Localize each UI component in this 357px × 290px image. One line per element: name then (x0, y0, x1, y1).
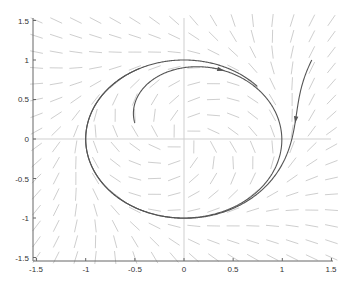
direction-segment (270, 78, 276, 90)
direction-segment (115, 251, 116, 264)
direction-segment (326, 144, 337, 150)
direction-segment (110, 80, 120, 88)
direction-segment (227, 82, 239, 86)
direction-segment (151, 94, 158, 105)
direction-segment (327, 95, 336, 104)
direction-segment (208, 128, 220, 133)
direction-segment (169, 238, 180, 245)
direction-segment (228, 127, 239, 135)
direction-segment (305, 225, 318, 227)
direction-segment (132, 125, 139, 136)
y-tick-label: -0.5 (15, 175, 29, 184)
direction-segment (74, 220, 77, 233)
direction-segment (270, 125, 275, 137)
direction-segment (228, 190, 237, 199)
x-tick-label: 0.5 (227, 265, 239, 274)
direction-segment (308, 126, 316, 136)
direction-segment (95, 251, 96, 264)
direction-segment (227, 240, 239, 244)
direction-segment (30, 83, 43, 84)
direction-segment (249, 126, 257, 136)
direction-segment (291, 46, 294, 59)
direction-segment (305, 193, 318, 195)
direction-segment (290, 14, 294, 26)
direction-segment (272, 140, 273, 153)
direction-segment (250, 46, 256, 58)
direction-segment (168, 224, 181, 227)
direction-segment (89, 34, 101, 38)
direction-segment (129, 160, 141, 165)
direction-segment (272, 46, 273, 59)
direction-segment (213, 156, 215, 169)
direction-segment (95, 219, 96, 232)
direction-segment (168, 51, 181, 52)
direction-segment (290, 30, 293, 43)
direction-segment (248, 111, 258, 119)
direction-segment (306, 176, 318, 181)
direction-segment (52, 127, 61, 136)
direction-segment (208, 49, 220, 55)
direction-segment (93, 141, 98, 153)
arrowhead-icon (294, 116, 298, 123)
direction-segment (288, 158, 296, 168)
direction-segment (188, 239, 200, 245)
direction-segment (89, 52, 102, 53)
direction-segment (210, 173, 217, 184)
direction-segment (306, 255, 318, 261)
direction-segment (129, 34, 141, 38)
direction-segment (188, 191, 199, 197)
direction-segment (231, 172, 236, 184)
direction-segment (70, 18, 82, 24)
direction-segment (53, 220, 59, 232)
direction-segment (50, 51, 63, 53)
direction-segment (32, 205, 40, 215)
x-tick-label: 0 (182, 265, 187, 274)
direction-segment (94, 204, 98, 216)
direction-segment (149, 17, 160, 25)
direction-segment (309, 15, 315, 27)
direction-segment (249, 63, 258, 73)
direction-segment (325, 194, 338, 195)
direction-segment (325, 210, 338, 211)
direction-segment (30, 98, 43, 101)
direction-segment (109, 34, 121, 38)
direction-segment (307, 142, 316, 151)
direction-segment (188, 113, 200, 117)
direction-segment (188, 97, 200, 102)
direction-segment (210, 141, 216, 152)
direction-segment (74, 251, 78, 263)
arrowhead-icon (217, 67, 224, 71)
direction-segment (50, 18, 62, 24)
direction-segment (148, 66, 160, 70)
direction-segment (286, 240, 298, 244)
direction-segment (248, 80, 258, 88)
direction-segment (95, 125, 96, 138)
direction-segment (325, 160, 337, 165)
direction-segment (230, 141, 237, 152)
direction-segment (110, 159, 120, 167)
x-tick-label: -1.5 (29, 265, 43, 274)
direction-segment (168, 210, 181, 211)
direction-segment (271, 62, 275, 74)
direction-segment (328, 31, 336, 42)
direction-segment (149, 144, 161, 149)
direction-segment (168, 81, 179, 87)
direction-segment (76, 188, 77, 201)
direction-segment (227, 113, 239, 118)
direction-segment (52, 142, 60, 152)
direction-segment (74, 235, 77, 248)
direction-segment (327, 47, 335, 57)
direction-segment (92, 157, 98, 168)
direction-segment (50, 83, 63, 85)
direction-segment (151, 125, 157, 136)
direction-segment (30, 34, 42, 38)
direction-segment (231, 14, 235, 26)
direction-segment (286, 192, 298, 196)
direction-segment (306, 240, 318, 244)
direction-segment (51, 112, 62, 119)
direction-segment (188, 50, 201, 53)
direction-segment (286, 255, 298, 261)
direction-segment (188, 209, 201, 212)
direction-segment (169, 16, 179, 25)
direction-segment (110, 175, 121, 182)
